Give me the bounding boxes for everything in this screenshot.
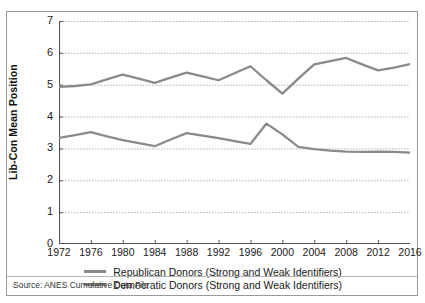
y-tick-label: 7 [31,14,53,26]
x-tick-label: 2012 [366,246,389,258]
legend-swatch-republican [84,270,106,273]
y-tick-label: 4 [31,110,53,122]
x-tick-label: 1992 [207,246,230,258]
series-line-republican [59,58,410,94]
x-tick-label: 1988 [175,246,198,258]
y-tick-label: 1 [31,205,53,217]
x-tick-label: 2000 [271,246,294,258]
x-axis-ticks: 1972197619801984198819921996200020042008… [59,246,410,262]
x-tick-label: 2016 [398,246,421,258]
y-tick-label: 2 [31,173,53,185]
x-tick-label: 1980 [111,246,134,258]
plot-area [59,21,410,244]
y-tick-label: 5 [31,78,53,90]
x-tick-label: 1972 [47,246,70,258]
y-axis-title: Lib-Con Mean Position [5,47,21,197]
series-line-democratic [59,124,410,153]
x-tick-label: 1984 [143,246,166,258]
source-note: Source: ANES Cumulative Data File [13,280,149,290]
series-canvas [59,21,410,244]
y-tick-label: 3 [31,141,53,153]
y-axis-ticks: 76543210 [29,21,53,244]
x-tick-label: 2004 [303,246,326,258]
x-tick-label: 2008 [334,246,357,258]
source-bar: Source: ANES Cumulative Data File [7,276,417,295]
x-tick-label: 1976 [79,246,102,258]
chart-figure: Lib-Con Mean Position 76543210 197219761… [6,11,418,296]
x-tick-label: 1996 [239,246,262,258]
y-tick-label: 6 [31,46,53,58]
